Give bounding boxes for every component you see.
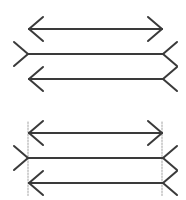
arrowhead-left-icon xyxy=(29,171,43,183)
arrowhead-left-icon xyxy=(29,67,43,79)
fin-right-icon xyxy=(163,67,177,79)
fin-right-icon xyxy=(163,146,177,158)
arrowhead-left-icon xyxy=(29,29,43,41)
fin-right-icon xyxy=(163,158,177,170)
fin-left-icon xyxy=(14,42,28,54)
fin-right-icon xyxy=(163,171,177,183)
arrowhead-right-icon xyxy=(148,121,162,133)
arrowhead-right-icon xyxy=(148,133,162,145)
muller-lyer-diagram xyxy=(0,0,186,200)
fin-right-icon xyxy=(163,42,177,54)
fin-left-icon xyxy=(14,158,28,170)
arrowhead-left-icon xyxy=(29,79,43,91)
fin-left-icon xyxy=(14,146,28,158)
fin-right-icon xyxy=(163,79,177,91)
arrowhead-right-icon xyxy=(148,17,162,29)
fin-right-icon xyxy=(163,54,177,66)
arrowhead-left-icon xyxy=(29,17,43,29)
fin-right-icon xyxy=(163,183,177,195)
arrowhead-left-icon xyxy=(29,183,43,195)
arrowhead-left-icon xyxy=(29,133,43,145)
arrowhead-right-icon xyxy=(148,29,162,41)
fin-left-icon xyxy=(14,54,28,66)
arrowhead-left-icon xyxy=(29,121,43,133)
